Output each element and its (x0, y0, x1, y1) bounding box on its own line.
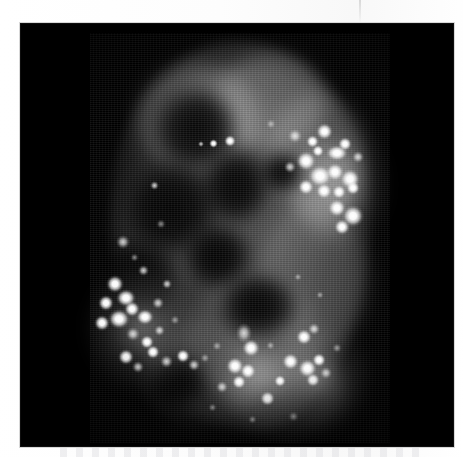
fluorescent-focus (132, 361, 144, 373)
foci-layer (20, 23, 454, 447)
fluorescent-focus (170, 315, 180, 325)
fluorescent-focus (98, 295, 114, 311)
fluorescent-focus (126, 327, 140, 341)
fluorescent-focus (94, 315, 110, 331)
fluorescent-focus (332, 343, 342, 353)
fluorescent-focus (312, 353, 326, 367)
fluorescent-focus (334, 219, 350, 235)
fluorescent-focus (216, 381, 228, 393)
fluorescent-focus (298, 179, 314, 195)
fluorescent-focus (212, 341, 222, 351)
fluorescent-focus (306, 373, 320, 387)
fluorescent-focus (308, 323, 320, 335)
fluorescent-focus (316, 123, 333, 140)
fluorescent-focus (136, 309, 154, 325)
fluorescent-focus (154, 325, 165, 336)
scan-seam-artifact (359, 0, 361, 24)
fluorescent-focus (188, 359, 200, 371)
fluorescent-focus (209, 139, 218, 148)
fluorescent-focus (198, 141, 204, 147)
fluorescent-focus (160, 355, 173, 368)
fluorescent-focus (162, 279, 172, 289)
fluorescent-focus (248, 415, 257, 424)
fluorescent-focus (338, 137, 352, 151)
fluorescence-micrograph-panel (20, 23, 454, 447)
scan-smudge-artifact (60, 448, 420, 457)
fluorescent-focus (116, 235, 130, 249)
fluorescent-focus (118, 349, 134, 365)
fluorescent-focus (152, 297, 164, 309)
fluorescent-focus (294, 273, 302, 281)
fluorescent-focus (150, 181, 159, 190)
fluorescent-focus (352, 151, 364, 163)
fluorescent-focus (288, 129, 302, 143)
fluorescent-focus (320, 367, 332, 379)
fluorescent-focus (284, 161, 296, 173)
fluorescent-focus (130, 253, 139, 262)
fluorescent-focus (282, 353, 299, 370)
fluorescent-focus (232, 375, 246, 389)
fluorescent-focus (208, 403, 217, 412)
fluorescent-focus (312, 145, 324, 157)
fluorescent-focus (332, 185, 346, 199)
fluorescent-focus (316, 183, 332, 199)
figure-page (0, 0, 463, 457)
fluorescent-focus (266, 119, 276, 129)
fluorescent-focus (274, 375, 286, 387)
fluorescent-focus (224, 135, 236, 147)
fluorescent-focus (156, 219, 166, 229)
fluorescent-focus (346, 181, 360, 195)
fluorescent-focus (288, 411, 299, 422)
fluorescent-focus (242, 339, 260, 357)
fluorescent-focus (316, 291, 324, 299)
fluorescent-focus (146, 345, 160, 359)
fluorescent-focus (266, 341, 275, 350)
fluorescent-focus (138, 265, 149, 276)
